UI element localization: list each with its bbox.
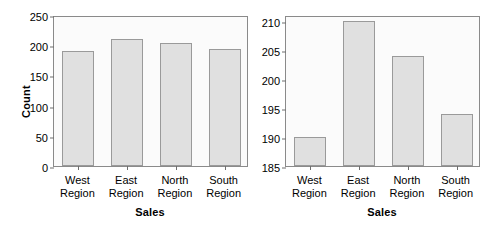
y-tick-mark xyxy=(282,51,286,52)
x-tick-label: EastRegion xyxy=(109,174,144,200)
x-tick-label-line2: Region xyxy=(341,187,376,200)
x-tick-label-line2: Region xyxy=(109,187,144,200)
y-tick-mark xyxy=(282,22,286,23)
x-tick-mark xyxy=(225,166,226,170)
x-tick-mark xyxy=(176,166,177,170)
chart-panel-left: Count 050100150200250 Sales WestRegionEa… xyxy=(0,0,252,230)
bar xyxy=(343,21,375,166)
x-tick-label-line1: South xyxy=(209,174,238,186)
plot-area-left: 050100150200250 xyxy=(53,16,248,167)
x-tick-mark xyxy=(78,166,79,170)
x-tick-label-line1: South xyxy=(441,174,470,186)
y-tick-mark xyxy=(50,107,54,108)
x-tick-mark xyxy=(457,166,458,170)
bar-series-right xyxy=(286,17,479,166)
bar-chart-figure: Count 050100150200250 Sales WestRegionEa… xyxy=(0,0,496,230)
x-axis-title-right: Sales xyxy=(367,206,397,218)
y-tick-mark xyxy=(50,47,54,48)
y-tick-mark xyxy=(50,17,54,18)
x-tick-label-line1: West xyxy=(65,174,90,186)
x-tick-label: SouthRegion xyxy=(438,174,473,200)
x-tick-label-line1: East xyxy=(115,174,137,186)
y-tick-mark xyxy=(282,168,286,169)
x-tick-label: SouthRegion xyxy=(206,174,241,200)
x-tick-label: WestRegion xyxy=(60,174,95,200)
y-tick-mark xyxy=(50,77,54,78)
bar-series-left xyxy=(54,17,247,166)
bar xyxy=(392,56,424,166)
x-tick-label: NorthRegion xyxy=(157,174,192,200)
bar xyxy=(160,43,192,166)
x-tick-label: EastRegion xyxy=(341,174,376,200)
y-tick-mark xyxy=(282,109,286,110)
x-tick-label-line1: North xyxy=(393,174,420,186)
x-tick-label: NorthRegion xyxy=(389,174,424,200)
x-tick-mark xyxy=(127,166,128,170)
bar xyxy=(62,51,94,166)
y-tick-mark xyxy=(282,138,286,139)
x-tick-label-line1: East xyxy=(347,174,369,186)
plot-area-right: 185190195200205210 xyxy=(285,16,480,167)
x-tick-label-line2: Region xyxy=(438,187,473,200)
y-tick-mark xyxy=(50,168,54,169)
x-tick-mark xyxy=(310,166,311,170)
x-tick-label-line2: Region xyxy=(60,187,95,200)
y-tick-mark xyxy=(50,137,54,138)
bar xyxy=(209,49,241,166)
x-tick-label-line1: West xyxy=(297,174,322,186)
x-tick-label-line2: Region xyxy=(389,187,424,200)
x-tick-mark xyxy=(408,166,409,170)
bar xyxy=(441,114,473,166)
x-axis-title-left: Sales xyxy=(135,206,165,218)
chart-panel-right: 185190195200205210 Sales WestRegionEastR… xyxy=(252,0,496,230)
bar xyxy=(111,39,143,166)
x-tick-label-line2: Region xyxy=(292,187,327,200)
x-tick-label-line1: North xyxy=(161,174,188,186)
x-tick-label: WestRegion xyxy=(292,174,327,200)
x-tick-mark xyxy=(359,166,360,170)
x-tick-label-line2: Region xyxy=(157,187,192,200)
y-tick-mark xyxy=(282,80,286,81)
bar xyxy=(294,137,326,166)
x-tick-label-line2: Region xyxy=(206,187,241,200)
